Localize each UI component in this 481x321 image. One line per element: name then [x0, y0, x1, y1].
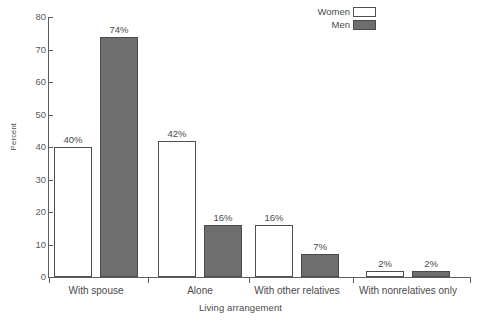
x-category-label: With nonrelatives only: [348, 285, 468, 296]
y-axis-title: Percent: [9, 107, 18, 167]
y-tick-label: 10: [24, 240, 46, 250]
plot-area: 40%74%42%16%16%7%2%2%: [48, 17, 471, 277]
bar-men-2: [301, 254, 339, 277]
legend-swatch-men: [353, 20, 376, 30]
bar-value-label: 42%: [158, 128, 196, 139]
y-tick-label: 70: [24, 45, 46, 55]
x-axis-title: Living arrangement: [0, 302, 481, 313]
bar-value-label: 40%: [54, 134, 92, 145]
legend: Women Men: [296, 6, 376, 32]
y-tick-label: 0: [24, 272, 46, 282]
y-tick-label: 60: [24, 77, 46, 87]
bar-women-2: [255, 225, 293, 277]
bar-chart: Percent 01020304050607080 40%74%42%16%16…: [0, 0, 481, 321]
y-tick-label: 30: [24, 175, 46, 185]
bar-value-label: 16%: [255, 212, 293, 223]
x-axis-tick: [249, 278, 250, 283]
legend-item-women: Women: [296, 6, 376, 18]
y-tick-label: 40: [24, 142, 46, 152]
legend-item-men: Men: [296, 19, 376, 31]
bar-value-label: 16%: [204, 212, 242, 223]
y-tick-label: 80: [24, 12, 46, 22]
y-axis-ticks: 01020304050607080: [20, 0, 46, 321]
bar-men-1: [204, 225, 242, 277]
legend-label-men: Men: [332, 19, 350, 31]
x-axis-tick: [49, 278, 50, 283]
x-axis-tick: [470, 278, 471, 283]
x-category-label: With other relatives: [237, 285, 357, 296]
x-axis-tick: [353, 278, 354, 283]
bar-value-label: 2%: [366, 258, 404, 269]
bar-value-label: 7%: [301, 241, 339, 252]
legend-swatch-women: [353, 7, 376, 17]
bar-value-label: 74%: [100, 24, 138, 35]
x-axis-tick: [148, 278, 149, 283]
bar-men-0: [100, 37, 138, 278]
bar-women-1: [158, 141, 196, 278]
bar-men-3: [412, 271, 450, 278]
y-tick-label: 50: [24, 110, 46, 120]
bar-women-3: [366, 271, 404, 278]
x-axis-line: [48, 277, 471, 278]
y-tick-label: 20: [24, 207, 46, 217]
bar-value-label: 2%: [412, 258, 450, 269]
bar-women-0: [54, 147, 92, 277]
x-category-label: With spouse: [36, 285, 156, 296]
legend-label-women: Women: [317, 6, 350, 18]
